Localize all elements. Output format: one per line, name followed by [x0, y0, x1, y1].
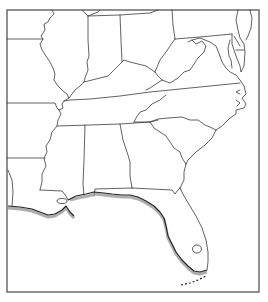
border-georgia-florida	[132, 188, 180, 194]
florida-keys	[181, 276, 206, 285]
border-tennessee-south	[57, 122, 150, 126]
border-ohio-west-virginia	[155, 39, 175, 72]
border-delaware-maryland	[234, 36, 244, 50]
southeast-us-map	[0, 0, 268, 302]
border-kentucky-virginia	[146, 80, 162, 90]
gulf-coast-shading	[8, 194, 207, 274]
border-pennsylvania-maryland	[175, 34, 232, 39]
gulf-coast	[8, 192, 207, 272]
border-south-carolina-georgia	[150, 122, 186, 164]
coast-virginia-north-carolina	[216, 56, 246, 130]
border-ohio-pennsylvania	[172, 10, 175, 39]
lake-okeechobee	[193, 245, 202, 253]
border-illinois-indiana	[82, 10, 89, 82]
border-kentucky-tennessee-virginia-nc	[64, 83, 240, 101]
border-texas-louisiana	[8, 170, 13, 206]
new-jersey-coast	[246, 10, 252, 40]
ohio-river-border	[69, 60, 155, 98]
border-alabama-georgia	[120, 124, 132, 188]
chesapeake-bay	[228, 40, 232, 68]
border-missouri-arkansas	[7, 103, 59, 110]
delmarva-peninsula	[232, 10, 245, 72]
border-indiana-ohio	[120, 15, 122, 62]
border-michigan-indiana-ohio	[88, 10, 158, 16]
map-frame	[7, 10, 259, 292]
coast-south-carolina	[186, 130, 216, 164]
border-tennessee-north-carolina	[134, 95, 166, 122]
lake-pontchartrain	[57, 199, 67, 204]
pamlico-sound	[236, 90, 240, 106]
border-mississippi-alabama	[83, 125, 85, 195]
border-north-carolina-south-carolina	[150, 117, 216, 130]
mississippi-river-border	[40, 10, 69, 190]
coast-georgia	[180, 164, 186, 188]
coast-florida-east	[180, 188, 208, 270]
border-west-virginia-virginia	[155, 40, 206, 83]
